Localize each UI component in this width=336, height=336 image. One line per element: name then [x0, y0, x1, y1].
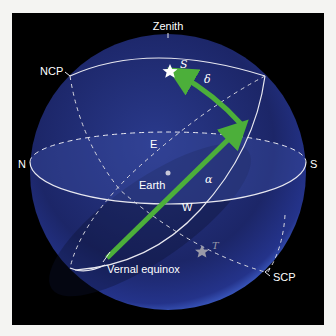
- scp-label: SCP: [273, 271, 296, 283]
- north-label: N: [18, 158, 26, 170]
- zenith-label: Zenith: [153, 20, 184, 32]
- vernal-equinox-label: Vernal equinox: [107, 263, 180, 275]
- ncp-label: NCP: [40, 65, 63, 77]
- earth-label: Earth: [139, 179, 165, 191]
- celestial-sphere-diagram: Zenith NCP N S E Earth W Vernal equinox …: [0, 0, 336, 336]
- earth-dot: [166, 171, 171, 176]
- ncp-tick: [65, 72, 70, 76]
- east-label: E: [150, 138, 157, 150]
- right-ascension-label: α: [205, 173, 213, 186]
- west-label: W: [182, 201, 193, 213]
- declination-label: δ: [204, 73, 211, 86]
- south-label: S: [310, 158, 317, 170]
- star-s-label: S: [180, 58, 188, 71]
